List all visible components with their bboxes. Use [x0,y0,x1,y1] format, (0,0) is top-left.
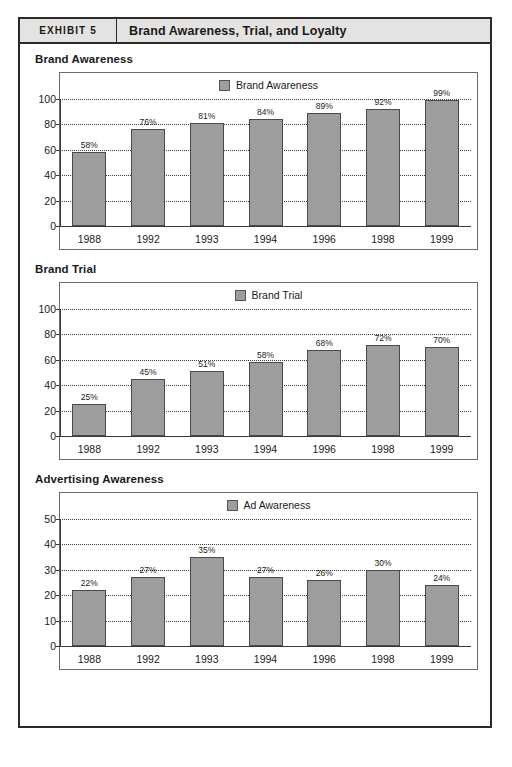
bar-value-label: 58% [257,350,274,360]
bar-cell: 70% [412,309,471,436]
plot-area: 0102030405022%27%35%27%26%30%24% [60,519,471,646]
chart-heading: Brand Trial [35,263,478,275]
x-axis-label: 1993 [177,233,236,245]
bar[interactable] [72,590,106,646]
bar[interactable] [131,379,165,436]
bar-cell: 58% [236,309,295,436]
exhibit-title: Brand Awareness, Trial, and Loyalty [117,24,346,38]
bar[interactable] [72,404,106,436]
bar-value-label: 58% [81,140,98,150]
bar-value-label: 51% [198,359,215,369]
exhibit-header: EXHIBIT 5 Brand Awareness, Trial, and Lo… [20,19,490,44]
bar-value-label: 81% [198,111,215,121]
bar-cell: 76% [119,99,178,226]
bar[interactable] [425,100,459,226]
bar-cell: 26% [295,519,354,646]
bar-value-label: 84% [257,107,274,117]
y-tick-label: 20 [44,405,56,417]
x-axis-label: 1993 [177,653,236,665]
x-axis-label: 1994 [236,233,295,245]
bar-value-label: 26% [316,568,333,578]
bar-value-label: 45% [140,367,157,377]
bar[interactable] [366,345,400,436]
chart-heading: Advertising Awareness [35,473,478,485]
chart-block-brand-awareness: Brand Awareness Brand Awareness 02040608… [32,53,478,250]
y-tick-label: 0 [50,640,56,652]
y-tick-mark [56,646,60,647]
y-tick-label: 40 [44,169,56,181]
bar[interactable] [249,119,283,226]
bar-cell: 72% [354,309,413,436]
bar-cell: 30% [354,519,413,646]
bar-value-label: 25% [81,392,98,402]
bar-cell: 68% [295,309,354,436]
y-tick-label: 60 [44,144,56,156]
plot-area: 02040608010025%45%51%58%68%72%70% [60,309,471,436]
bar-value-label: 27% [140,565,157,575]
bar-value-label: 68% [316,338,333,348]
bar[interactable] [425,585,459,646]
bar[interactable] [425,347,459,436]
bar-cell: 92% [354,99,413,226]
chart-block-brand-trial: Brand Trial Brand Trial 02040608010025%4… [32,263,478,460]
y-tick-label: 0 [50,430,56,442]
bar-value-label: 76% [140,117,157,127]
bar[interactable] [131,577,165,646]
x-axis-label: 1996 [295,443,354,455]
plot-frame: Brand Trial 02040608010025%45%51%58%68%7… [59,282,478,460]
bar-cell: 84% [236,99,295,226]
bar[interactable] [131,129,165,226]
x-axis-label: 1992 [119,233,178,245]
x-axis-label: 1993 [177,443,236,455]
chart-block-advertising-awareness: Advertising Awareness Ad Awareness 01020… [32,473,478,670]
bar[interactable] [307,113,341,226]
bar[interactable] [249,577,283,646]
bar[interactable] [190,557,224,646]
bar-cell: 81% [177,99,236,226]
bar-value-label: 27% [257,565,274,575]
bar[interactable] [307,350,341,436]
x-axis-label: 1994 [236,653,295,665]
x-axis-label: 1992 [119,443,178,455]
bar-cell: 45% [119,309,178,436]
y-tick-label: 60 [44,354,56,366]
x-axis-label: 1996 [295,653,354,665]
bar-value-label: 72% [374,333,391,343]
bar-cell: 24% [412,519,471,646]
bar-cell: 58% [60,99,119,226]
x-axis-label: 1999 [412,653,471,665]
legend-swatch-icon [235,290,246,301]
y-tick-mark [56,226,60,227]
bar[interactable] [190,123,224,226]
x-axis-label: 1998 [354,653,413,665]
bar-value-label: 92% [374,97,391,107]
bar-value-label: 70% [433,335,450,345]
bar-series: 58%76%81%84%89%92%99% [60,99,471,226]
y-tick-label: 40 [44,538,56,550]
bar[interactable] [72,152,106,226]
bar-series: 22%27%35%27%26%30%24% [60,519,471,646]
bar[interactable] [190,371,224,436]
gridline [60,646,471,647]
gridline [60,226,471,227]
bar[interactable] [307,580,341,646]
legend-label: Brand Awareness [236,79,318,91]
bar[interactable] [366,570,400,646]
plot-area: 02040608010058%76%81%84%89%92%99% [60,99,471,226]
y-tick-label: 20 [44,589,56,601]
x-axis-labels: 1988199219931994199619981999 [60,233,471,245]
bar-series: 25%45%51%58%68%72%70% [60,309,471,436]
x-axis-label: 1988 [60,233,119,245]
x-axis-label: 1996 [295,233,354,245]
x-axis-label: 1988 [60,443,119,455]
bar[interactable] [366,109,400,226]
legend-label: Brand Trial [252,289,303,301]
y-tick-label: 30 [44,564,56,576]
y-tick-label: 0 [50,220,56,232]
y-tick-label: 50 [44,513,56,525]
bar[interactable] [249,362,283,436]
bar-cell: 99% [412,99,471,226]
x-axis-label: 1999 [412,233,471,245]
plot-frame: Ad Awareness 0102030405022%27%35%27%26%3… [59,492,478,670]
y-tick-label: 10 [44,615,56,627]
